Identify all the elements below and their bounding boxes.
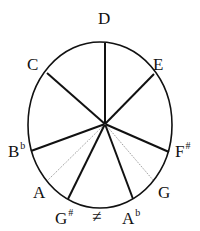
spokes <box>31 43 169 199</box>
note-label-d: D <box>98 9 110 28</box>
spoke-e <box>105 74 154 124</box>
tone-circle-diagram: DCEBbF#AGG#Ab ≠ <box>0 0 200 231</box>
note-label-c: C <box>27 55 38 74</box>
note-label-gs: G# <box>55 207 73 228</box>
note-label-fs: F# <box>175 140 190 161</box>
spoke-g <box>105 124 153 180</box>
note-label-bb: Bb <box>8 140 25 161</box>
not-equal-symbol: ≠ <box>92 207 101 226</box>
note-label-e: E <box>153 55 163 74</box>
spoke-a <box>48 124 105 180</box>
note-label-ab: Ab <box>122 207 140 228</box>
note-label-g: G <box>158 183 170 202</box>
note-label-a: A <box>33 183 46 202</box>
spoke-c <box>47 73 105 124</box>
